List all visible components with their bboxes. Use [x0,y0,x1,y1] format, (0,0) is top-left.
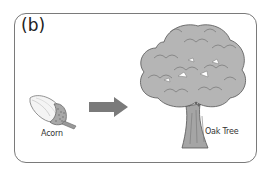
oak-tree-caption: Oak Tree [205,127,238,136]
acorn-icon [24,92,82,132]
acorn-caption: Acorn [41,129,63,138]
panel-label: (b) [21,15,45,35]
arrow-right-icon [88,96,130,118]
